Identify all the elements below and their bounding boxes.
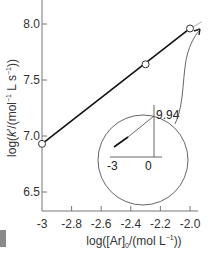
y-tick-label: 8.0 xyxy=(23,17,40,31)
data-point xyxy=(187,25,194,32)
inset-fit-line-thin xyxy=(128,116,154,137)
x-ticks: -3-2.8-2.6-2.4-2.2-2.0 xyxy=(37,206,201,231)
corner-artifact xyxy=(0,230,6,247)
y-tick-label: 7.0 xyxy=(23,129,40,143)
inset-fit-line xyxy=(114,137,128,147)
x-tick-label: -2.2 xyxy=(150,217,171,231)
data-point xyxy=(142,61,149,68)
data-point xyxy=(39,140,46,147)
x-tick-label: -2.8 xyxy=(61,217,82,231)
y-tick-label: 6.5 xyxy=(23,185,40,199)
x-tick-label: -2.0 xyxy=(180,217,201,231)
x-tick-label: -2.6 xyxy=(91,217,112,231)
chart-canvas: 6.57.07.58.0 -3-2.8-2.6-2.4-2.2-2.0 9.94… xyxy=(0,0,208,255)
axes xyxy=(42,0,198,211)
inset-x-tick-label-right: 0 xyxy=(145,159,152,173)
fit-line xyxy=(42,28,190,143)
x-tick-label: -2.4 xyxy=(120,217,141,231)
x-axis-label: log([Ar]0/(mol L−1)) xyxy=(86,234,181,249)
y-tick-label: 7.5 xyxy=(23,73,40,87)
inset: 9.94 -3 0 xyxy=(98,105,188,205)
y-axis-label: log(k′/(mol−1 L s−1)) xyxy=(5,59,19,157)
inset-x-tick-label-left: -3 xyxy=(107,159,118,173)
inset-intercept-label: 9.94 xyxy=(156,108,180,122)
y-ticks: 6.57.07.58.0 xyxy=(23,17,47,199)
x-tick-label: -3 xyxy=(37,217,48,231)
